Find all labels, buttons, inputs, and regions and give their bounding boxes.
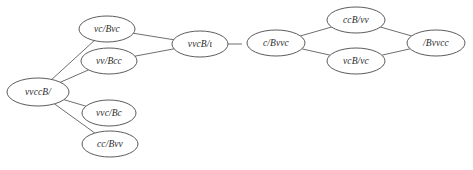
- graph-edge: [380, 27, 411, 36]
- graph-node-label: vvcB/ι: [188, 39, 213, 49]
- graph-node-label: vcB/vc: [343, 56, 370, 66]
- graph-node-label: vvccB/: [25, 87, 52, 97]
- graph-svg-layer: vvccB/vc/Bvcvv/Bccvvc/Bccc/BvvvvcB/ιc/Bv…: [0, 0, 473, 170]
- graph-edge: [302, 49, 330, 55]
- graph-node-label: /Bvvcc: [422, 38, 450, 48]
- graph-edge: [133, 33, 173, 39]
- graph-edge: [64, 100, 86, 107]
- graph-edge: [60, 70, 88, 82]
- graph-node-label: vvc/Bc: [96, 108, 123, 118]
- graph-edge: [135, 49, 174, 56]
- graph-node-label: ccB/vv: [343, 15, 370, 25]
- graph-node-label: vc/Bvc: [94, 24, 121, 34]
- graph-node-label: cc/Bvv: [97, 139, 124, 149]
- diagram-canvas: vvccB/vc/Bvcvv/Bccvvc/Bccc/BvvvvcB/ιc/Bv…: [0, 0, 473, 170]
- nodes-group: vvccB/vc/Bvcvv/Bccvvc/Bccc/BvvvvcB/ιc/Bv…: [7, 7, 465, 157]
- graph-node-label: c/Bvvc: [263, 38, 290, 48]
- graph-node-label: vv/Bcc: [96, 56, 123, 66]
- graph-edge: [300, 27, 331, 36]
- graph-edge: [382, 49, 410, 55]
